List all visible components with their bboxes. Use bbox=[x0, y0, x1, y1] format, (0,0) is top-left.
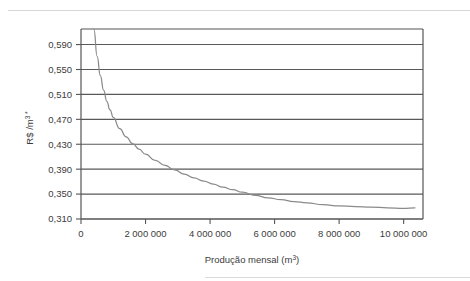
y-tick-label: 0,430 bbox=[48, 139, 72, 150]
x-tick-label: 2 000 000 bbox=[124, 228, 166, 239]
line-chart: 0,3100,3500,3900,4300,4700,5100,5500,590… bbox=[0, 0, 470, 281]
gridlines-group bbox=[81, 45, 423, 195]
x-title-base: Produção mensal (m bbox=[205, 254, 293, 265]
y-tick-label: 0,350 bbox=[48, 188, 72, 199]
x-axis-tick-labels: 02 000 0004 000 0006 000 0008 000 00010 … bbox=[78, 228, 427, 239]
x-tick-label: 4 000 000 bbox=[189, 228, 231, 239]
x-title-close: ) bbox=[296, 254, 299, 265]
y-axis-title: R$ /m3 * bbox=[24, 111, 35, 145]
y-axis-ticks bbox=[76, 45, 81, 219]
y-tick-label: 0,390 bbox=[48, 164, 72, 175]
y-tick-label: 0,310 bbox=[48, 213, 72, 224]
x-tick-label: 8 000 000 bbox=[318, 228, 360, 239]
x-axis-title: Produção mensal (m3) bbox=[205, 254, 299, 265]
y-axis-tick-labels: 0,3100,3500,3900,4300,4700,5100,5500,590 bbox=[48, 39, 72, 224]
x-axis-ticks bbox=[81, 219, 404, 224]
figure-container: 0,3100,3500,3900,4300,4700,5100,5500,590… bbox=[0, 0, 470, 281]
data-series-line bbox=[94, 29, 415, 208]
y-tick-label: 0,470 bbox=[48, 114, 72, 125]
y-tick-label: 0,590 bbox=[48, 39, 72, 50]
y-title-footnote: * bbox=[24, 111, 31, 116]
x-tick-label: 6 000 000 bbox=[253, 228, 295, 239]
y-tick-label: 0,510 bbox=[48, 89, 72, 100]
x-tick-label: 10 000 000 bbox=[380, 228, 428, 239]
y-tick-label: 0,550 bbox=[48, 64, 72, 75]
x-tick-label: 0 bbox=[78, 228, 83, 239]
y-title-base: R$ /m bbox=[24, 119, 35, 144]
